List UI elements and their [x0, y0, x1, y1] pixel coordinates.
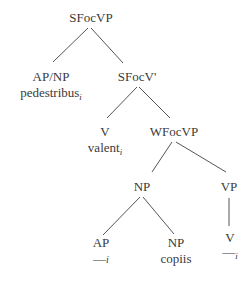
node-np-low: NP copiis — [160, 235, 191, 267]
node-sfocvp: SFocVP — [69, 10, 112, 26]
node-np-mid: NP — [134, 179, 151, 195]
node-trace: —i — [222, 244, 238, 260]
node-v-upper: V valenti — [88, 124, 122, 156]
branch-np-right — [143, 197, 174, 234]
node-word: copiis — [160, 251, 191, 267]
node-label: NP — [160, 235, 191, 251]
branch-wfocvp-right — [176, 142, 226, 172]
node-wfocvp: WFocVP — [150, 124, 198, 140]
node-label: SFocV' — [118, 69, 156, 84]
node-v-low: V —i — [222, 230, 238, 260]
node-label: AP — [93, 235, 110, 251]
node-vp-right: VP — [221, 179, 238, 195]
branch-sfocvbar-left — [107, 87, 137, 118]
branch-root-right — [91, 28, 123, 63]
node-sfocv-bar: SFocV' — [118, 69, 156, 85]
tree-branches — [0, 0, 251, 294]
node-word: pedestribusi — [20, 85, 82, 101]
branch-wfocvp-left — [152, 142, 172, 172]
node-trace: —i — [93, 251, 110, 268]
node-word: valenti — [88, 140, 122, 156]
node-label: V — [88, 124, 122, 140]
node-label: NP — [134, 179, 151, 194]
node-label: SFocVP — [69, 10, 112, 25]
node-label: VP — [221, 179, 238, 194]
branch-np-left — [103, 197, 140, 235]
node-label: AP/NP — [20, 69, 82, 85]
node-ap-low: AP —i — [93, 235, 110, 268]
node-label: WFocVP — [150, 124, 198, 139]
branch-root-left — [53, 28, 88, 62]
branch-sfocvbar-right — [139, 87, 170, 118]
node-ap-np: AP/NP pedestribusi — [20, 69, 82, 101]
